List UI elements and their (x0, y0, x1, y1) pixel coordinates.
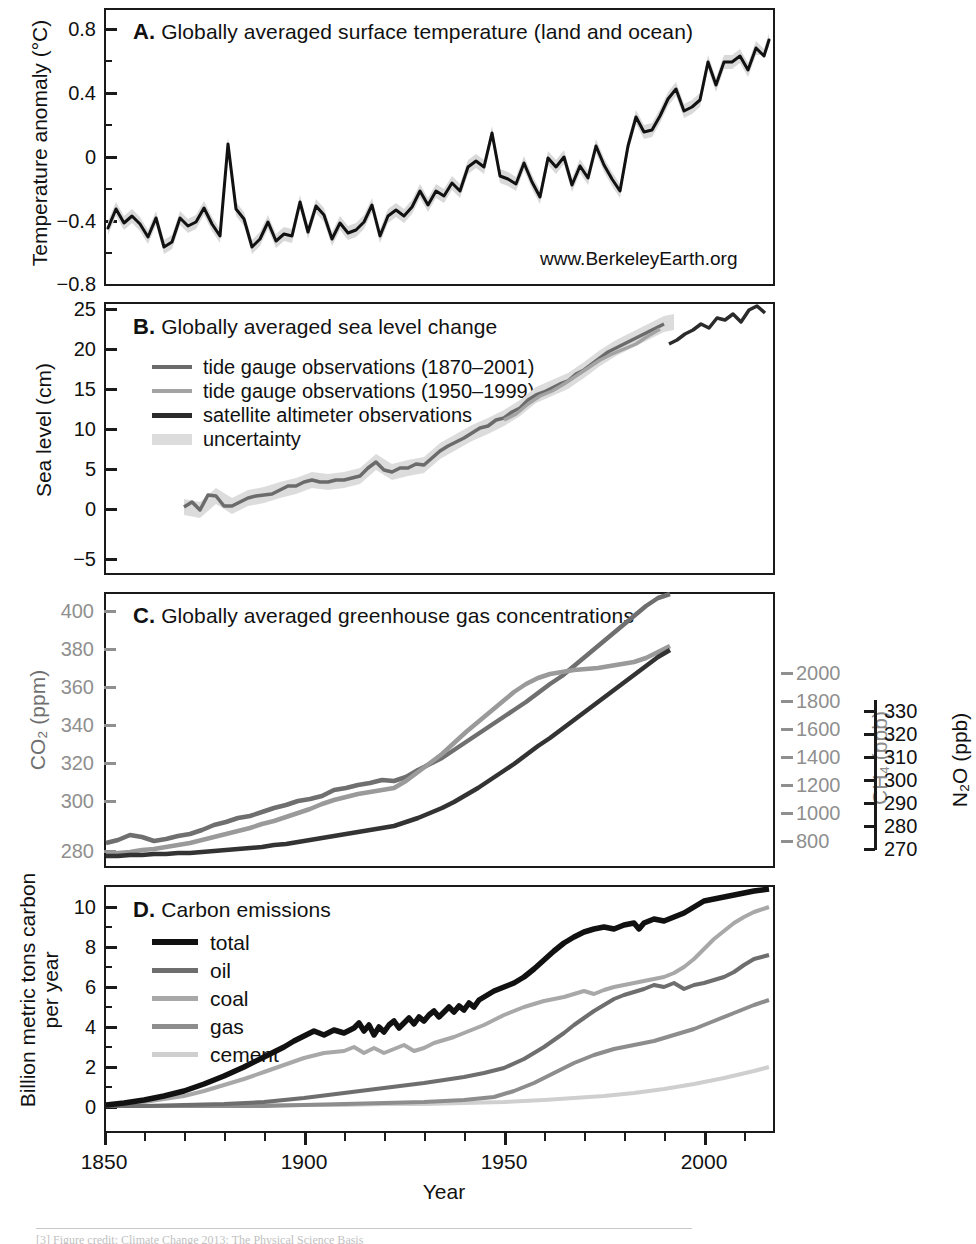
panel-d-plot (104, 885, 775, 1133)
panel-c-ch4-tick-mark (781, 756, 793, 759)
xtick-mark (704, 1133, 707, 1145)
panel-b-ytick-6: −5 (26, 548, 96, 571)
xtick-label-1950: 1950 (464, 1150, 544, 1174)
panel-c-co2-tick-0: 400 (22, 600, 94, 623)
panel-c-n2o-tick-3: 300 (884, 769, 954, 792)
panel-b-uncertainty-band (184, 314, 674, 518)
xtick-minor (544, 1133, 546, 1141)
panel-c-ch4-tick-mark (781, 784, 793, 787)
panel-c-ch4-tick-mark (781, 672, 793, 675)
panel-c-n2o-tick-4: 290 (884, 792, 954, 815)
panel-c-n2o-tick-mark (864, 733, 875, 736)
panel-a-ytick-2: 0 (20, 146, 96, 169)
panel-c-n2o-axis-label: N₂O (ppb) (948, 680, 972, 840)
panel-a-ytick-1: 0.4 (20, 82, 96, 105)
panel-b-ytick-4: 5 (32, 458, 96, 481)
xtick-mark (304, 1133, 307, 1145)
panel-a-y-axis-label: Temperature anomaly (°C) (28, 3, 52, 283)
panel-b-plot (104, 302, 775, 575)
footer-divider (36, 1228, 692, 1229)
panel-c-n2o-tick-5: 280 (884, 815, 954, 838)
panel-b-ytick-5: 0 (32, 498, 96, 521)
xtick-minor (744, 1133, 746, 1141)
panel-c-ch4-line (106, 646, 670, 854)
panel-c-n2o-line (106, 650, 670, 856)
panel-a-ytick-3: −0.4 (14, 210, 96, 233)
xtick-minor (184, 1133, 186, 1141)
panel-c-ch4-tick-0: 2000 (796, 662, 878, 685)
panel-c-n2o-tick-mark (864, 756, 875, 759)
panel-c-ch4-tick-5: 1000 (796, 802, 878, 825)
panel-b-satellite-altimeter-line (669, 306, 765, 344)
panel-c-n2o-tick-2: 310 (884, 746, 954, 769)
panel-c-co2-tick-2: 360 (22, 676, 94, 699)
panel-c-n2o-tick-mark (864, 825, 875, 828)
panel-a-temperature-line (108, 40, 769, 247)
panel-c-co2-tick-6: 280 (22, 840, 94, 863)
panel-b-ytick-3: 10 (32, 418, 96, 441)
panel-c-n2o-tick-mark (864, 710, 875, 713)
xtick-minor (344, 1133, 346, 1141)
xtick-minor (624, 1133, 626, 1141)
xtick-minor (664, 1133, 666, 1141)
panel-c-n2o-tick-mark (864, 779, 875, 782)
xtick-minor (464, 1133, 466, 1141)
xtick-minor (264, 1133, 266, 1141)
xtick-minor (424, 1133, 426, 1141)
panel-c-ch4-tick-mark (781, 840, 793, 843)
panel-c-co2-tick-1: 380 (22, 638, 94, 661)
panel-c-co2-tick-4: 320 (22, 752, 94, 775)
panel-d-ytick-2: 6 (28, 976, 96, 999)
panel-c-n2o-tick-6: 270 (884, 838, 954, 861)
panel-d-ytick-4: 2 (28, 1056, 96, 1079)
panel-c-ch4-tick-2: 1600 (796, 718, 878, 741)
panel-a-uncertainty-band (108, 33, 769, 254)
panel-c-n2o-tick-mark (864, 848, 875, 851)
panel-c-n2o-tick-0: 330 (884, 700, 954, 723)
panel-d-ytick-3: 4 (28, 1016, 96, 1039)
panel-a-ytick-0: 0.8 (20, 18, 96, 41)
panel-c-ch4-tick-4: 1200 (796, 774, 878, 797)
xtick-label-1850: 1850 (64, 1150, 144, 1174)
panel-c-n2o-tick-mark (864, 802, 875, 805)
xtick-minor (224, 1133, 226, 1141)
panel-c-co2-tick-5: 300 (22, 790, 94, 813)
panel-c-n2o-tick-1: 320 (884, 723, 954, 746)
xtick-mark (104, 1133, 107, 1145)
xtick-minor (584, 1133, 586, 1141)
panel-c-co2-line (106, 594, 670, 843)
climate-indicators-figure: Temperature anomaly (°C) 0.8 0.4 0 −0.4 … (0, 0, 976, 1244)
xtick-minor (384, 1133, 386, 1141)
panel-d-coal-line (106, 907, 769, 1105)
panel-c-n2o-axis-line (874, 700, 877, 850)
xtick-label-1900: 1900 (264, 1150, 344, 1174)
xtick-mark (504, 1133, 507, 1145)
panel-d-ytick-1: 8 (28, 936, 96, 959)
panel-a-plot (104, 8, 775, 286)
panel-d-ytick-0: 10 (28, 896, 96, 919)
panel-b-ytick-0: 25 (32, 298, 96, 321)
panel-c-co2-tick-3: 340 (22, 714, 94, 737)
xtick-label-2000: 2000 (664, 1150, 744, 1174)
panel-d-total-line (106, 889, 769, 1105)
panel-d-ytick-5: 0 (28, 1096, 96, 1119)
panel-c-plot (104, 592, 775, 868)
xtick-minor (144, 1133, 146, 1141)
panel-c-ch4-tick-mark (781, 728, 793, 731)
panel-b-ytick-1: 20 (32, 338, 96, 361)
panel-c-ch4-tick-mark (781, 812, 793, 815)
panel-c-ch4-tick-mark (781, 700, 793, 703)
footer-note: [3] Figure credit: Climate Change 2013: … (36, 1233, 736, 1244)
panel-b-ytick-2: 15 (32, 378, 96, 401)
panel-a-ytick-4: −0.8 (14, 273, 96, 296)
x-axis-title: Year (364, 1180, 524, 1204)
panel-b-tide-gauge-1870-line (184, 324, 664, 510)
